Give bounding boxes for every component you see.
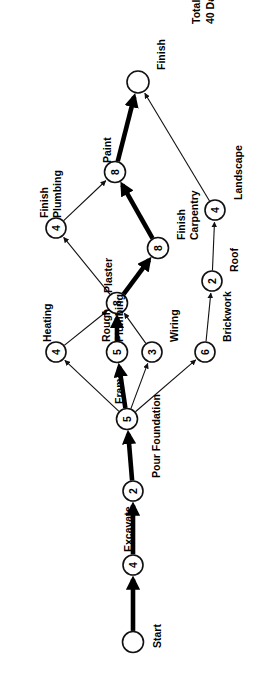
node-circle-start: [123, 632, 144, 653]
node-label-pour-text: Pour Foundation: [150, 394, 162, 478]
node-start[interactable]: [123, 632, 144, 653]
node-label-exc-text: Excavate: [122, 506, 134, 552]
edge-brick-to-roof: [206, 293, 211, 341]
edge-pour-to-frame: [128, 434, 132, 481]
pert-network-diagram: 4254536824848 StartExcavatePour Foundati…: [0, 0, 255, 674]
node-duration-paint: 8: [109, 169, 121, 175]
node-fplumb[interactable]: 4: [46, 218, 66, 238]
node-label-roof-text: Roof: [228, 248, 240, 272]
edge-roof-to-land: [212, 222, 214, 270]
node-heat[interactable]: 4: [46, 342, 66, 362]
node-exc[interactable]: 4: [123, 555, 143, 575]
node-label-wiring-text: Wiring: [168, 309, 180, 342]
total-note-line2: 40 Days: [204, 0, 216, 24]
node-rplumb[interactable]: 5: [107, 342, 128, 363]
node-label-paint-text: Paint: [101, 137, 113, 163]
node-label-land-text: Landscape: [232, 145, 244, 200]
edge-plaster-to-fcarp: [124, 260, 149, 294]
total-note-line1: Total: [190, 0, 202, 24]
node-duration-fplumb: 4: [50, 225, 62, 231]
node-wiring[interactable]: 3: [142, 342, 162, 362]
node-finish[interactable]: [127, 71, 149, 93]
node-duration-rplumb: 5: [111, 349, 123, 355]
edge-land-to-finish: [145, 93, 210, 201]
network-canvas: 4254536824848: [0, 0, 255, 674]
node-label-rplumb-line1: Rough: [100, 309, 112, 342]
node-land[interactable]: 4: [205, 200, 225, 220]
node-label-fcarp-line1: Finish: [175, 209, 187, 240]
node-duration-land: 4: [209, 207, 221, 213]
edge-paint-to-finish: [118, 97, 134, 161]
node-duration-brick: 6: [199, 349, 211, 355]
edge-wiring-to-plaster: [124, 313, 145, 343]
node-brick[interactable]: 6: [195, 342, 215, 362]
edge-layer: [64, 93, 215, 631]
node-label-fcarp-line2: Carpentry: [188, 190, 200, 240]
edge-frame-to-wiring: [131, 363, 148, 408]
edge-frame-to-heat: [65, 360, 119, 411]
node-duration-fcarp: 8: [152, 245, 164, 251]
node-label-plaster-text: Plaster: [102, 258, 114, 293]
node-label-fplumb-line1: Finish: [38, 187, 50, 218]
node-fcarp[interactable]: 8: [148, 238, 169, 259]
node-layer: 4254536824848: [46, 71, 225, 653]
node-label-frame-text: Frame: [113, 372, 125, 404]
node-duration-roof: 2: [206, 278, 218, 284]
edge-frame-to-brick: [135, 360, 195, 412]
node-roof[interactable]: 2: [202, 271, 222, 291]
node-duration-frame: 5: [121, 416, 133, 422]
node-duration-wiring: 3: [146, 349, 158, 355]
node-duration-pour: 2: [127, 488, 139, 494]
node-label-rplumb-line2: Plumbing: [113, 294, 125, 342]
edge-fcarp-to-paint: [122, 185, 152, 238]
node-frame[interactable]: 5: [117, 409, 138, 430]
node-circle-finish: [127, 71, 149, 93]
node-label-heat-text: Heating: [41, 303, 53, 342]
edge-fplumb-to-paint: [64, 181, 106, 221]
node-pour[interactable]: 2: [123, 481, 143, 501]
node-label-fplumb-line2: Plumbing: [51, 170, 63, 218]
node-label-brick-text: Brickwork: [221, 291, 233, 342]
node-duration-exc: 4: [127, 562, 139, 568]
node-duration-heat: 4: [50, 349, 62, 355]
node-label-start-text: Start: [151, 624, 163, 648]
node-paint[interactable]: 8: [105, 162, 126, 183]
node-label-finish-text: Finish: [155, 39, 167, 70]
